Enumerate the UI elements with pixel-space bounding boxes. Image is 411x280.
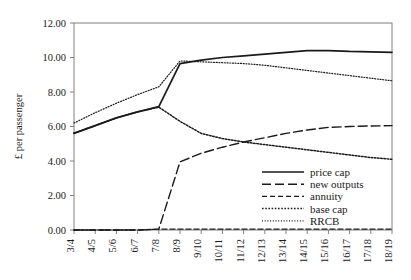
x-axis: 3/44/55/66/77/88/99/1010/1111/1212/1313/… [65, 230, 394, 263]
y-tick-label: 6.00 [48, 121, 66, 132]
x-tick-label: 4/5 [86, 239, 97, 252]
x-tick-label: 7/8 [150, 239, 161, 252]
y-tick-label: 0.00 [48, 225, 66, 236]
x-tick-label: 8/9 [171, 239, 182, 252]
y-tick-label: 12.00 [42, 18, 66, 29]
y-axis: 0.002.004.006.008.0010.0012.00 [42, 18, 74, 236]
series-line-base-cap [74, 107, 392, 159]
x-tick-label: 9/10 [192, 239, 203, 258]
chart-container: 0.002.004.006.008.0010.0012.00£ per pass… [0, 0, 411, 280]
x-tick-label: 12/13 [256, 239, 267, 263]
y-axis-title: £ per passenger [13, 93, 24, 159]
legend-label-RRCB: RRCB [310, 215, 339, 227]
legend-label-price-cap: price cap [310, 166, 350, 178]
x-tick-label: 16/17 [341, 239, 352, 263]
y-tick-label: 10.00 [42, 52, 66, 63]
x-tick-label: 18/19 [383, 239, 394, 263]
y-tick-label: 8.00 [48, 87, 66, 98]
legend-label-base-cap: base cap [310, 203, 348, 215]
x-tick-label: 5/6 [107, 239, 118, 252]
x-tick-label: 3/4 [65, 238, 76, 252]
y-tick-label: 2.00 [48, 190, 66, 201]
y-tick-label: 4.00 [48, 156, 66, 167]
plot-frame [74, 23, 392, 230]
x-tick-label: 13/14 [277, 238, 288, 263]
legend: price capnew outputsannuitybase capRRCB [262, 166, 363, 227]
x-tick-label: 14/15 [298, 239, 309, 263]
x-tick-label: 6/7 [129, 239, 140, 252]
legend-label-new-outputs: new outputs [310, 178, 363, 190]
legend-label-annuity: annuity [310, 190, 343, 202]
x-tick-label: 11/12 [235, 239, 246, 263]
line-chart: 0.002.004.006.008.0010.0012.00£ per pass… [0, 0, 411, 280]
x-tick-label: 17/18 [362, 239, 373, 263]
x-tick-label: 10/11 [213, 239, 224, 263]
x-tick-label: 15/16 [319, 239, 330, 263]
series-line-RRCB [74, 61, 392, 123]
